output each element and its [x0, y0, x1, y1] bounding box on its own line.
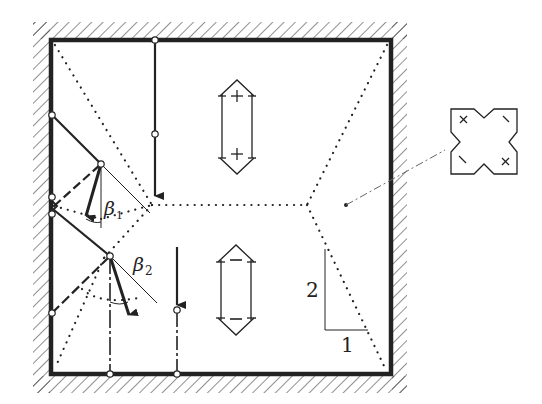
- fixed-corner-cross-icon: [451, 109, 517, 174]
- svg-text:1: 1: [116, 209, 123, 222]
- yield-line-diagram: β 1 β 2 2 1: [0, 0, 542, 404]
- slab-boundary: [51, 40, 391, 374]
- svg-text:2: 2: [145, 264, 153, 278]
- svg-text:β: β: [132, 253, 144, 275]
- svg-text:β: β: [103, 197, 115, 219]
- svg-text:1: 1: [341, 333, 354, 357]
- svg-text:2: 2: [306, 278, 319, 302]
